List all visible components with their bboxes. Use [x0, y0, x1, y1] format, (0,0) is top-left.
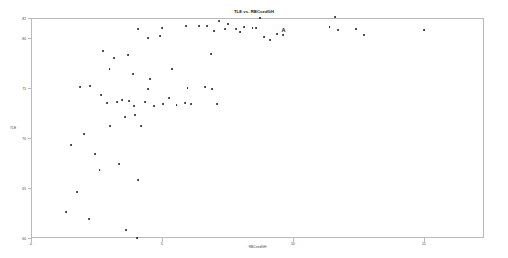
data-point	[89, 85, 91, 87]
data-point	[106, 102, 108, 104]
data-point	[423, 29, 425, 31]
data-point	[159, 35, 161, 37]
y-axis-tick: 70	[28, 138, 32, 139]
data-point	[282, 34, 284, 36]
data-point	[147, 37, 149, 39]
data-point	[137, 179, 139, 181]
data-point	[79, 86, 81, 88]
data-point	[161, 27, 163, 29]
data-point	[162, 103, 164, 105]
data-point	[171, 68, 173, 70]
y-axis-tick: 65	[28, 188, 32, 189]
data-point	[124, 116, 126, 118]
data-point	[269, 39, 271, 41]
y-axis-tick: 75	[28, 88, 32, 89]
plot-area: 606570758082051015A	[31, 18, 484, 238]
y-axis-label: TLE	[10, 126, 16, 130]
y-axis-tick-label: 65	[22, 187, 26, 191]
data-point	[109, 125, 111, 127]
data-point	[125, 229, 127, 231]
data-point	[252, 27, 254, 29]
data-point	[88, 218, 90, 220]
data-point	[211, 88, 213, 90]
data-point	[133, 105, 135, 107]
chart-title: TLE vs. RBCsedGH	[0, 9, 508, 15]
data-point	[263, 36, 265, 38]
data-point	[94, 153, 96, 155]
data-point	[235, 28, 237, 30]
data-point	[121, 99, 123, 101]
x-axis-label: RBCsedGH	[31, 245, 484, 249]
data-point	[329, 26, 331, 28]
data-point	[185, 25, 187, 27]
data-point	[334, 16, 336, 18]
data-point	[363, 34, 365, 36]
data-point	[83, 133, 85, 135]
data-point	[337, 29, 339, 31]
data-point	[118, 163, 120, 165]
data-point	[190, 103, 192, 105]
data-point	[255, 27, 257, 29]
data-point	[140, 125, 142, 127]
data-point	[168, 97, 170, 99]
data-point	[144, 101, 146, 103]
data-point	[134, 114, 136, 116]
data-point	[204, 86, 206, 88]
data-point	[224, 28, 226, 30]
data-point	[76, 191, 78, 193]
data-point	[243, 26, 245, 28]
data-point	[128, 100, 130, 102]
data-point	[116, 101, 118, 103]
data-point	[240, 31, 242, 33]
y-axis-tick-label: 80	[22, 37, 26, 41]
scatter-chart: TLE vs. RBCsedGH 606570758082051015A TLE…	[0, 0, 508, 258]
y-axis-tick: 82	[28, 18, 32, 19]
y-axis-tick: 80	[28, 38, 32, 39]
data-point	[210, 53, 212, 55]
data-point	[184, 102, 186, 104]
data-point	[216, 103, 218, 105]
data-point	[198, 25, 200, 27]
x-axis-tick	[162, 238, 163, 242]
data-point	[355, 28, 357, 30]
data-point-annotation: A	[281, 27, 285, 33]
data-point	[218, 20, 220, 22]
data-point	[137, 28, 139, 30]
data-point	[213, 30, 215, 32]
data-point	[259, 17, 261, 19]
data-point	[149, 78, 151, 80]
data-point	[132, 73, 134, 75]
y-axis-tick-label: 60	[22, 237, 26, 241]
data-point	[276, 33, 278, 35]
data-point	[227, 23, 229, 25]
data-point	[102, 50, 104, 52]
data-point	[99, 169, 101, 171]
data-point	[70, 144, 72, 146]
data-point	[136, 237, 138, 239]
x-axis-tick	[293, 238, 294, 242]
data-point	[113, 57, 115, 59]
y-axis-tick-label: 70	[22, 137, 26, 141]
y-axis-tick-label: 75	[22, 87, 26, 91]
data-point	[187, 87, 189, 89]
data-point	[65, 211, 67, 213]
data-point	[176, 104, 178, 106]
data-point	[109, 68, 111, 70]
data-point	[147, 88, 149, 90]
data-point	[207, 25, 209, 27]
y-axis-tick-label: 82	[22, 17, 26, 21]
data-point	[153, 105, 155, 107]
x-axis-tick	[424, 238, 425, 242]
x-axis-tick	[31, 238, 32, 242]
data-point	[100, 94, 102, 96]
data-point	[127, 54, 129, 56]
